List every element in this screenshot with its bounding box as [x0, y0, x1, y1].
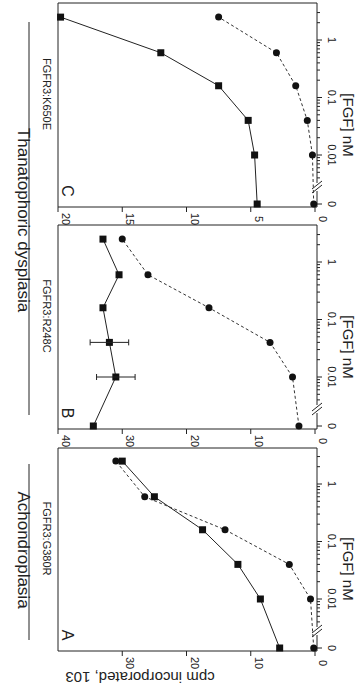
y-tick-label: 20 — [189, 435, 201, 447]
x-tick-label: 0 — [326, 645, 338, 651]
circle-marker — [273, 49, 280, 56]
x-tick-label: 1 — [326, 37, 338, 43]
x-tick-label: 0.01 — [326, 366, 338, 387]
x-tick-label: 0.1 — [326, 90, 338, 105]
circle-marker — [112, 458, 119, 465]
x-tick-label: 1 — [326, 259, 338, 265]
x-tick-label: 0.01 — [326, 588, 338, 609]
square-marker — [276, 645, 283, 652]
y-tick-label: 10 — [189, 213, 201, 225]
figure: 00.010.11[FGF] nM0102030AFGFR3:G380R00.0… — [0, 0, 361, 700]
y-tick-label: 0 — [317, 660, 329, 666]
y-axis-label-exponent: 3 — [65, 669, 73, 686]
square-marker — [251, 152, 258, 159]
circle-marker — [304, 117, 311, 124]
panel-title: FGFR3:G380R — [41, 502, 53, 576]
square-marker — [119, 458, 126, 465]
group-title-thanatophoric: Thanatophoric dysplasia — [14, 128, 33, 313]
y-tick-label: 15 — [124, 213, 136, 225]
y-tick-label: 10 — [253, 657, 265, 669]
square-marker — [99, 304, 106, 311]
series-squares-line — [122, 461, 279, 648]
circle-marker — [309, 152, 316, 159]
y-tick-label: 20 — [60, 213, 72, 225]
circle-marker — [292, 82, 299, 89]
square-marker — [99, 236, 106, 243]
panel-title: FGFR3:K650E — [41, 58, 53, 130]
square-marker — [215, 82, 222, 89]
circle-marker — [310, 201, 317, 208]
x-tick-label: 0.1 — [326, 534, 338, 549]
x-axis-label: [FGF] nM — [340, 537, 357, 600]
circle-marker — [289, 374, 296, 381]
circle-marker — [267, 339, 274, 346]
y-axis-label: cpm incorporated, 103 — [65, 669, 214, 686]
series-squares-line — [61, 17, 258, 204]
y-tick-label: 20 — [189, 657, 201, 669]
panel-b: 00.010.11[FGF] nM010203040BFGFR3:R248C — [41, 225, 357, 447]
x-tick-label: 0 — [326, 423, 338, 429]
panel-letter: C — [59, 185, 76, 197]
square-marker — [57, 14, 64, 21]
panel-letter: A — [59, 630, 76, 641]
circle-marker — [141, 493, 148, 500]
x-tick-label: 1 — [326, 481, 338, 487]
square-marker — [90, 423, 97, 430]
circle-marker — [205, 304, 212, 311]
y-tick-label: 0 — [317, 438, 329, 444]
series-squares-line — [93, 239, 119, 426]
y-tick-label: 0 — [317, 216, 329, 222]
panel-a: 00.010.11[FGF] nM0102030AFGFR3:G380R — [41, 448, 357, 669]
panel-c: 00.010.11[FGF] nM05101520CFGFR3:K650E — [41, 3, 357, 225]
series-circles-line — [219, 17, 314, 204]
x-tick-label: 0.1 — [326, 312, 338, 327]
y-tick-label: 30 — [124, 435, 136, 447]
square-marker — [254, 201, 261, 208]
square-marker — [234, 561, 241, 568]
panel-title: FGFR3:R248C — [41, 279, 53, 352]
x-axis-label: [FGF] nM — [340, 93, 357, 156]
x-tick-label: 0.01 — [326, 144, 338, 165]
circle-marker — [307, 596, 314, 603]
square-marker — [245, 117, 252, 124]
circle-marker — [286, 561, 293, 568]
circle-marker — [222, 526, 229, 533]
y-tick-label: 30 — [124, 657, 136, 669]
x-axis-label: [FGF] nM — [340, 315, 357, 378]
square-marker — [151, 493, 158, 500]
square-marker — [116, 271, 123, 278]
circle-marker — [310, 645, 317, 652]
square-marker — [257, 596, 264, 603]
circle-marker — [215, 14, 222, 21]
circle-marker — [295, 423, 302, 430]
x-tick-label: 0 — [326, 201, 338, 207]
group-title-achondroplasia: Achondroplasia — [14, 491, 33, 609]
series-circles-line — [116, 461, 314, 648]
y-tick-label: 40 — [60, 435, 72, 447]
panel-letter: B — [59, 408, 76, 419]
square-marker — [199, 526, 206, 533]
square-marker — [157, 49, 164, 56]
circle-marker — [119, 236, 126, 243]
circle-marker — [144, 271, 151, 278]
y-tick-label: 10 — [253, 435, 265, 447]
y-tick-label: 5 — [253, 216, 265, 222]
series-circles-line — [122, 239, 299, 426]
